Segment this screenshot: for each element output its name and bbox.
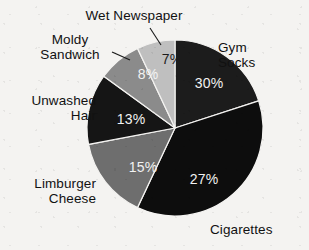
slice-label-wet-newspaper: Wet Newspaper [54,8,214,23]
slice-value-limburger-cheese: 15% [129,159,158,175]
slice-value-moldy-sandwich: 8% [138,66,159,82]
slice-value-unwashed-hair: 13% [117,111,146,127]
slice-value-cigarettes: 27% [190,171,219,187]
slice-label-gym-socks: Gym Socks [218,40,304,70]
slice-label-unwashed-hair: Unwashed Hair [0,93,96,123]
slice-label-moldy-sandwich: Moldy Sandwich [18,32,122,62]
slice-value-wet-newspaper: 7% [162,51,183,67]
slice-value-gym-socks: 30% [195,75,224,91]
slice-label-limburger-cheese: Limburger Cheese [0,176,96,206]
pie-chart-figure: 30% 27% 15% 13% 8% 7% Wet Newspaper Mold… [0,0,309,250]
slice-label-cigarettes: Cigarettes [210,222,308,237]
